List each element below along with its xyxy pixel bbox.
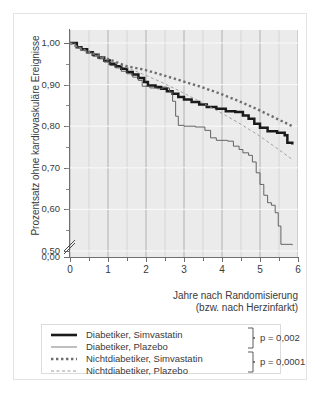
y-tick-label: 1,00 <box>20 38 60 48</box>
legend-row[interactable]: Nichtdiabetiker, Simvastatin <box>50 353 274 365</box>
legend-sample-dashed-thin <box>50 365 78 377</box>
y-tick-minor <box>66 105 69 106</box>
x-tick-label: 1 <box>101 265 115 275</box>
y-tick-minor <box>66 85 69 86</box>
y-tick-minor <box>66 230 69 231</box>
x-axis-title-line2: (bzw. nach Herzinfarkt) <box>54 302 298 314</box>
y-tick-label: 0,50 <box>20 246 60 256</box>
x-tick-minor <box>165 258 166 261</box>
x-tick <box>184 258 185 262</box>
y-tick-minor <box>66 209 69 210</box>
figure-container: Prozentsatz ohne kardiovaskuläre Ereigni… <box>13 13 307 380</box>
y-tick-label: 0,90 <box>20 80 60 90</box>
y-tick <box>64 257 69 258</box>
x-tick-minor <box>279 258 280 261</box>
y-tick-minor <box>66 168 69 169</box>
p-value-1: p = 0,002 <box>260 332 300 344</box>
chart-svg <box>70 30 298 257</box>
y-tick <box>64 43 69 44</box>
x-tick-label: 3 <box>177 265 191 275</box>
y-tick-minor <box>66 126 69 127</box>
x-tick <box>70 258 71 262</box>
legend-sample-solid-thick <box>50 329 78 341</box>
x-tick <box>108 258 109 262</box>
legend-sample-dotted-thick <box>50 353 78 365</box>
legend-sample-solid-thin <box>50 341 78 353</box>
x-tick-label: 4 <box>215 265 229 275</box>
x-tick-minor <box>89 258 90 261</box>
y-tick-label: 0,80 <box>20 121 60 131</box>
gridlines <box>70 30 298 257</box>
x-tick <box>298 258 299 262</box>
x-tick-label: 2 <box>139 265 153 275</box>
x-tick-label: 0 <box>63 265 77 275</box>
legend-label: Nichtdiabetiker, Plazebo <box>86 365 188 377</box>
legend-row[interactable]: Diabetiker, Simvastatin <box>50 329 274 341</box>
y-axis-break-icon <box>63 238 77 254</box>
y-tick-label: 0,70 <box>20 163 60 173</box>
x-axis-title-line1: Jahre nach Randomisierung <box>54 290 298 302</box>
y-tick-minor <box>66 147 69 148</box>
series-lines <box>70 43 292 245</box>
legend-label: Nichtdiabetiker, Simvastatin <box>86 353 203 365</box>
y-tick-minor <box>66 64 69 65</box>
x-axis-title: Jahre nach Randomisierung (bzw. nach Her… <box>54 290 298 314</box>
y-tick-label: 0,60 <box>20 204 60 214</box>
plot-area <box>70 30 298 257</box>
p-value-2: p = 0,0001 <box>260 356 305 368</box>
x-tick-label: 5 <box>253 265 267 275</box>
legend-label: Diabetiker, Plazebo <box>86 341 168 353</box>
x-tick-label: 6 <box>291 265 305 275</box>
x-tick <box>260 258 261 262</box>
y-axis-line <box>69 29 70 258</box>
legend-row[interactable]: Nichtdiabetiker, Plazebo <box>50 365 274 377</box>
x-tick <box>222 258 223 262</box>
legend-row[interactable]: Diabetiker, Plazebo <box>50 341 274 353</box>
x-tick-minor <box>241 258 242 261</box>
y-tick-minor <box>66 189 69 190</box>
x-tick-minor <box>127 258 128 261</box>
x-tick-minor <box>203 258 204 261</box>
legend-label: Diabetiker, Simvastatin <box>86 329 183 341</box>
legend: Diabetiker, Simvastatin Diabetiker, Plaz… <box>41 324 281 374</box>
x-tick <box>146 258 147 262</box>
